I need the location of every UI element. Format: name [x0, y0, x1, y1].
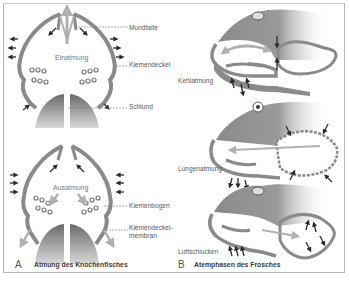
label-lungenatmung: Lungenatmung [178, 166, 222, 173]
frog-lung-breathing-diagram [211, 102, 337, 188]
panel-a-letter: A [15, 260, 22, 270]
panel-b-caption: Atemphasen des Frosches [194, 262, 281, 269]
label-kiemenbogen: Kiemenbogen [129, 203, 170, 210]
label-kehlatmung: Kehlatmung [178, 78, 213, 85]
frog-air-swallowing-diagram [210, 184, 334, 258]
fish-exhalation-diagram [10, 146, 128, 264]
label-kiemendeckelmembran-2: membran [129, 233, 157, 240]
label-ausatmung: Ausatmung [53, 184, 88, 191]
fish-inhalation-diagram [10, 10, 128, 128]
label-luftschlucken: Luftschlucken [178, 249, 218, 256]
label-einatmung: Einatmung [55, 54, 88, 61]
diagram-illustration [0, 0, 349, 285]
label-kiemendeckel: Kiemendeckel [129, 62, 170, 69]
label-kiemendeckelmembran-1: Kiemendeckel- [129, 225, 173, 232]
panel-a-caption: Atmung des Knochenfisches [34, 262, 128, 269]
label-schlund: Schlund [129, 104, 153, 111]
label-mundfalte: Mundfalte [129, 25, 158, 32]
panel-b-letter: B [178, 260, 185, 270]
frog-throat-breathing-diagram [212, 9, 336, 96]
